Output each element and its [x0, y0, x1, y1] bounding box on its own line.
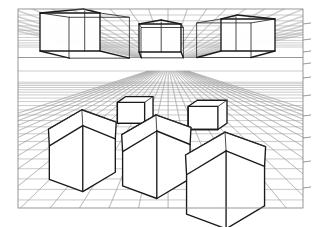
small-cube-front: [188, 106, 218, 129]
box-front-outline: [221, 19, 275, 51]
small-cube-front: [117, 102, 144, 123]
ceiling-box-center: [139, 20, 183, 58]
box-front-outline: [139, 24, 181, 52]
perspective-scene: [0, 0, 322, 227]
box-front-outline: [40, 13, 100, 51]
box-bottom-face: [139, 52, 183, 58]
floor-cube-far-right: [188, 100, 227, 129]
